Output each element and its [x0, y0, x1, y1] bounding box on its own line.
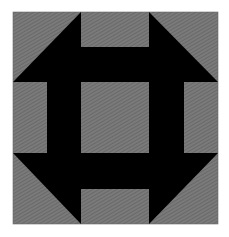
quilt-block: [0, 0, 229, 237]
bar-top: [81, 47, 149, 82]
bar-left: [47, 82, 81, 153]
bar-bottom: [81, 153, 149, 189]
bar-right: [149, 82, 184, 153]
block-background: [13, 12, 218, 224]
